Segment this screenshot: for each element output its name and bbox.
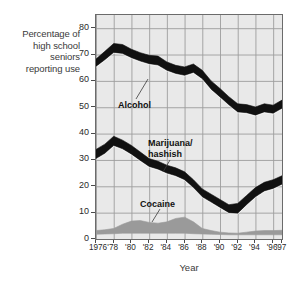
y-axis-title-line-4: reporting use — [2, 63, 80, 75]
y-axis-tick-label: 70 — [67, 49, 89, 58]
x-axis-tick-label: '92 — [229, 243, 245, 252]
y-axis-tick-label: 50 — [67, 102, 89, 111]
x-axis-tick-label: '84 — [158, 243, 174, 252]
x-axis-tick-label: '86 — [176, 243, 192, 252]
y-axis-tick-mark — [91, 27, 95, 28]
y-axis-tick-mark — [91, 80, 95, 81]
x-axis-tick-mark — [113, 240, 114, 243]
y-axis-tick-label: 60 — [67, 75, 89, 84]
y-axis-tick-label: 30 — [67, 154, 89, 163]
series-label-cocaine: Cocaine — [140, 199, 175, 210]
y-axis-tick-mark — [91, 212, 95, 213]
x-axis-tick-mark — [254, 240, 255, 243]
x-axis-tick-mark — [281, 240, 282, 243]
series-label-marijuana-line-1: Marijuana/ — [148, 138, 193, 148]
x-axis-tick-label: '94 — [246, 243, 262, 252]
x-axis-tick-label: '97 — [273, 243, 289, 252]
x-axis-tick-label: '78 — [105, 243, 121, 252]
y-axis-tick-mark — [91, 54, 95, 55]
y-axis-tick-label: 40 — [67, 128, 89, 137]
x-axis-tick-label: '82 — [140, 243, 156, 252]
x-axis-tick-mark — [237, 240, 238, 243]
x-axis-tick-mark — [201, 240, 202, 243]
x-axis-tick-label: '90 — [211, 243, 227, 252]
x-axis-tick-label: '80 — [122, 243, 138, 252]
series-label-marijuana-line-2: hashish — [148, 149, 182, 159]
chart-figure: Percentage of high school seniors report… — [0, 0, 295, 291]
y-axis-tick-mark — [91, 106, 95, 107]
x-axis-tick-mark — [130, 240, 131, 243]
x-axis-title: Year — [95, 262, 283, 273]
y-axis-tick-label: 20 — [67, 181, 89, 190]
y-axis-tick-mark — [91, 159, 95, 160]
data-series-layer — [96, 15, 282, 239]
y-axis-tick-label: 0 — [67, 234, 89, 243]
x-axis-tick-mark — [148, 240, 149, 243]
x-axis-tick-mark — [184, 240, 185, 243]
y-axis-tick-mark — [91, 238, 95, 239]
y-axis-tick-mark — [91, 185, 95, 186]
y-axis-tick-label: 80 — [67, 23, 89, 32]
series-label-marijuana: Marijuana/ hashish — [148, 138, 193, 160]
y-axis-tick-mark — [91, 133, 95, 134]
plot-area — [95, 14, 283, 240]
x-axis-tick-mark — [219, 240, 220, 243]
y-axis-tick-label: 10 — [67, 207, 89, 216]
series-label-alcohol: Alcohol — [118, 100, 151, 111]
x-axis-tick-label: '88 — [193, 243, 209, 252]
x-axis-tick-mark — [166, 240, 167, 243]
x-axis-tick-mark — [95, 240, 96, 243]
